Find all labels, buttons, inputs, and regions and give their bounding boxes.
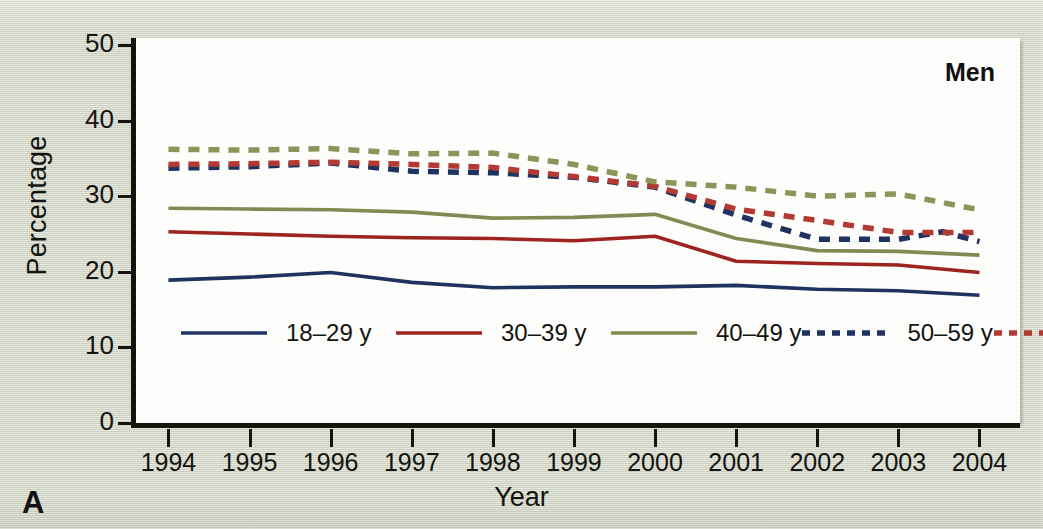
legend-label: 18–29 y [286, 321, 371, 345]
solid-line-icon [395, 326, 483, 340]
legend-item: 60–69 y [993, 318, 1043, 347]
legend-item: 18–29 y [180, 318, 395, 347]
legend-label: 50–59 y [907, 321, 992, 345]
dashed-line-icon [993, 326, 1043, 340]
series-line [168, 273, 979, 296]
y-axis-label: Percentage [22, 96, 53, 316]
chart-title: Men [945, 58, 995, 87]
x-axis-label: Year [0, 482, 1043, 513]
legend-label: 40–49 y [716, 321, 801, 345]
figure-panel-a: 01020304050 1994199519961997199819992000… [0, 0, 1043, 529]
solid-line-icon [610, 326, 698, 340]
legend-item: 30–39 y [395, 318, 610, 347]
panel-letter: A [22, 485, 44, 521]
legend-item: 40–49 y [610, 318, 801, 347]
legend: 18–29 y30–39 y40–49 y50–59 y60–69 y≥ 70 … [180, 318, 640, 347]
solid-line-icon [180, 326, 268, 340]
series-lines [0, 0, 1043, 529]
series-line [168, 162, 979, 232]
dashed-line-icon [801, 326, 889, 340]
legend-label: 30–39 y [501, 321, 586, 345]
legend-item: 50–59 y [801, 318, 992, 347]
series-line [168, 208, 979, 255]
